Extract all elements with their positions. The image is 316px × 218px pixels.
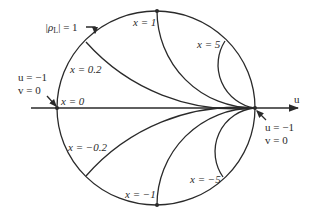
right-point-u-label: u = −1: [265, 121, 294, 133]
label-xm0_2: x = −0.2: [67, 141, 107, 153]
left-point-u-label: u = −1: [18, 71, 47, 83]
point-bottom: [155, 203, 159, 207]
arc-xm1: [157, 108, 254, 205]
point-top: [155, 9, 159, 13]
u-axis-label: u: [294, 93, 300, 105]
label-x1: x = 1: [132, 16, 156, 28]
label-x0: x = 0: [60, 95, 85, 107]
label-xm5: x = −5: [189, 173, 221, 185]
label-x5: x = 5: [196, 38, 221, 50]
right-point-v-label: v = 0: [265, 134, 288, 146]
label-xm1: x = −1: [124, 188, 156, 200]
arc-xm0_2: [86, 107, 254, 176]
arc-x1: [157, 11, 254, 108]
label-x0_2: x = 0.2: [69, 63, 102, 75]
smith-chart-diagram: |ρL| = 1 u = −1 v = 0 u = −1 v = 0 u x =…: [0, 0, 316, 218]
point-left: [55, 106, 59, 110]
unit-circle-label: |ρL| = 1: [45, 21, 78, 35]
point-right: [253, 106, 257, 110]
left-point-v-label: v = 0: [18, 84, 41, 96]
left-point-pointer: [47, 96, 56, 106]
right-point-pointer: [257, 111, 266, 120]
arc-x0_2: [86, 42, 254, 109]
